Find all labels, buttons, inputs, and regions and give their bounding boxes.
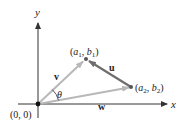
theta-label: θ [57,89,62,100]
point-a2-b2-label: (a2, b2) [135,82,164,95]
x-axis-label: x [170,98,176,110]
vector-diagram: x y (0, 0) θ u v w (a1, b1) (a2, b2) [0,0,181,129]
origin-label: (0, 0) [10,109,32,121]
origin-point [36,102,41,107]
y-axis-label: y [34,6,40,18]
diagram-canvas: x y (0, 0) θ u v w (a1, b1) (a2, b2) [0,0,181,129]
point-a2-b2 [129,85,133,89]
point-a1-b1 [84,57,88,61]
vector-w-label: w [98,101,106,112]
point-a1-b1-label: (a1, b1) [70,46,99,59]
vector-u-label: u [109,62,115,73]
vector-v-label: v [54,71,59,82]
